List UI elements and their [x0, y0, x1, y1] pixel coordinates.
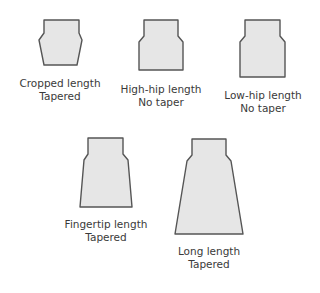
high-hip-label-line1: High-hip length: [121, 83, 202, 96]
long-label-line1: Long length: [178, 245, 240, 258]
fingertip-label: Fingertip length Tapered: [65, 218, 148, 244]
cropped-label: Cropped length Tapered: [19, 77, 100, 103]
low-hip-no-taper-shape: [240, 20, 285, 77]
fingertip-label-line1: Fingertip length: [65, 218, 148, 231]
low-hip-label-line2: No taper: [224, 102, 302, 115]
long-label-line2: Tapered: [178, 258, 240, 271]
cropped-label-line2: Tapered: [19, 90, 100, 103]
high-hip-label-line2: No taper: [121, 96, 202, 109]
high-hip-no-taper-shape: [139, 20, 183, 70]
long-label: Long length Tapered: [178, 245, 240, 271]
sweater-length-diagram: [0, 0, 320, 293]
cropped-label-line1: Cropped length: [19, 77, 100, 90]
cropped-tapered-shape: [39, 20, 82, 65]
low-hip-label-line1: Low-hip length: [224, 89, 302, 102]
high-hip-label: High-hip length No taper: [121, 83, 202, 109]
low-hip-label: Low-hip length No taper: [224, 89, 302, 115]
long-tapered-shape: [175, 139, 243, 234]
fingertip-label-line2: Tapered: [65, 231, 148, 244]
fingertip-tapered-shape: [80, 138, 132, 207]
